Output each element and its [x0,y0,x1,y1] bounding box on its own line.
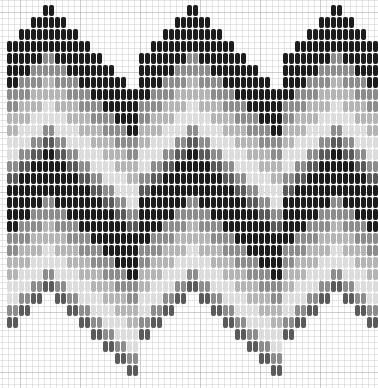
stitch-black [247,89,252,100]
stitch-very-light [55,113,60,124]
stitch-black [289,197,294,208]
stitch-light-gray [13,257,18,268]
stitch-light-gray [373,125,378,136]
stitch-very-light [91,293,96,304]
stitch-black [97,77,102,88]
stitch-light-gray [253,293,258,304]
stitch-mid-gray [115,197,120,208]
stitch-mid-gray [79,161,84,172]
stitch-light-gray [19,101,24,112]
stitch-light-gray [139,125,144,136]
stitch-black [61,173,66,184]
stitch-mid-gray [13,89,18,100]
stitch-mid-gray [103,125,108,136]
stitch-black [259,89,264,100]
stitch-mid-gray [73,233,78,244]
stitch-black [49,149,54,160]
stitch-dark-gray [169,161,174,172]
stitch-mid-gray [253,125,258,136]
stitch-mid-gray [277,149,282,160]
stitch-dark-gray [13,173,18,184]
stitch-dark-gray [319,293,324,304]
stitch-very-light [187,257,192,268]
stitch-mid-gray [187,269,192,280]
stitch-dark-gray [79,317,84,328]
stitch-mid-gray [97,245,102,256]
stitch-light-gray [7,257,12,268]
stitch-very-light [79,137,84,148]
stitch-mid-gray [151,233,156,244]
stitch-black [121,101,126,112]
stitch-light-gray [205,245,210,256]
stitch-dark-gray [331,281,336,292]
stitch-black [277,101,282,112]
stitch-very-light [79,293,84,304]
stitch-mid-gray [259,341,264,352]
stitch-mid-gray [277,137,282,148]
stitch-mid-gray [217,233,222,244]
stitch-black [163,53,168,64]
stitch-black [259,101,264,112]
stitch-light-gray [265,149,270,160]
stitch-black [55,185,60,196]
stitch-black [337,185,342,196]
stitch-dark-gray [217,161,222,172]
stitch-black [355,65,360,76]
stitch-mid-gray [187,197,192,208]
stitch-black [13,197,18,208]
stitch-black [73,209,78,220]
stitch-very-light [313,269,318,280]
stitch-light-gray [139,137,144,148]
stitch-black [367,221,372,232]
stitch-black [121,233,126,244]
stitch-light-gray [223,113,228,124]
stitch-mid-gray [355,89,360,100]
stitch-black [313,65,318,76]
stitch-light-gray [283,125,288,136]
stitch-black [157,185,162,196]
stitch-mid-gray [337,125,342,136]
stitch-black [151,221,156,232]
stitch-mid-gray [175,137,180,148]
stitch-mid-gray [145,113,150,124]
stitch-mid-gray [253,185,258,196]
stitch-mid-gray [367,89,372,100]
stitch-light-gray [373,113,378,124]
stitch-mid-gray [115,269,120,280]
stitch-mid-gray [247,113,252,124]
stitch-mid-gray [67,221,72,232]
stitch-very-light [295,281,300,292]
stitch-light-gray [349,233,354,244]
stitch-light-gray [271,317,276,328]
stitch-light-gray [211,257,216,268]
stitch-very-light [133,329,138,340]
stitch-black [259,245,264,256]
stitch-light-gray [295,269,300,280]
stitch-black [241,197,246,208]
stitch-light-gray [265,161,270,172]
stitch-mid-gray [211,293,216,304]
stitch-mid-gray [361,293,366,304]
stitch-very-light [109,305,114,316]
stitch-very-light [217,125,222,136]
stitch-black [175,197,180,208]
stitch-black [193,41,198,52]
stitch-mid-gray [7,89,12,100]
stitch-mid-gray [211,221,216,232]
stitch-black [235,197,240,208]
stitch-mid-gray [103,329,108,340]
stitch-black [259,233,264,244]
stitch-very-light [79,281,84,292]
stitch-black [145,53,150,64]
stitch-black [7,197,12,208]
stitch-black [343,41,348,52]
stitch-dark-gray [55,149,60,160]
stitch-very-light [43,245,48,256]
stitch-very-light [199,125,204,136]
stitch-black [199,173,204,184]
stitch-black [151,197,156,208]
stitch-mid-gray [355,293,360,304]
stitch-black [199,161,204,172]
stitch-very-light [109,173,114,184]
stitch-very-light [187,113,192,124]
